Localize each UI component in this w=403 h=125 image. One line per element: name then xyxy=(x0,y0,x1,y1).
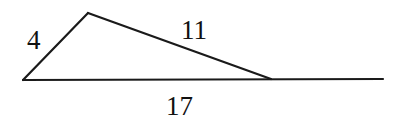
label-base: 17 xyxy=(166,91,193,121)
side-top-right xyxy=(88,13,271,79)
baseline xyxy=(23,79,383,80)
triangle-diagram: 4 11 17 xyxy=(0,0,403,125)
label-top-side: 11 xyxy=(181,15,207,45)
label-left-side: 4 xyxy=(27,25,41,55)
